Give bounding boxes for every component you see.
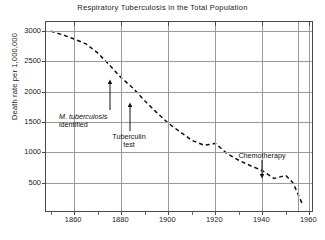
annotation-arrows (0, 0, 325, 240)
figure: Respiratory Tuberculosis in the Total Po… (0, 0, 325, 240)
